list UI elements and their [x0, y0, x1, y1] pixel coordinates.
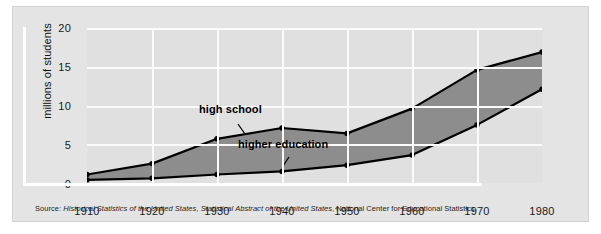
chart-figure-panel: millions of students 20 15 10 5 0 — [12, 6, 589, 222]
gridline-y-10 — [87, 106, 542, 108]
source-title-1: Historical Statistics of the United Stat… — [63, 204, 196, 213]
y-tick-20: 20 — [45, 23, 71, 34]
y-axis-line — [23, 27, 26, 186]
x-tick-1980: 1980 — [518, 205, 566, 217]
y-tick-15: 15 — [45, 62, 71, 73]
y-axis-tick-labels: 20 15 10 5 0 — [41, 7, 71, 197]
source-title-2: Statistical Abstract of the United State… — [201, 204, 332, 213]
y-tick-5: 5 — [45, 140, 71, 151]
source-prefix: Source: — [35, 204, 63, 213]
annotation-higher-education: higher education — [238, 138, 328, 150]
leader-line-high-school — [238, 124, 245, 134]
gridline-y-15 — [87, 67, 542, 69]
annotation-high-school: high school — [199, 103, 262, 115]
y-tick-10: 10 — [45, 101, 71, 112]
source-suffix: , National Center for Educational Statis… — [332, 204, 475, 213]
x-axis-tick-labels: 1910 1920 1930 1940 1950 1960 1970 1980 — [75, 23, 555, 53]
source-note: Source: Historical Statistics of the Uni… — [35, 204, 475, 213]
